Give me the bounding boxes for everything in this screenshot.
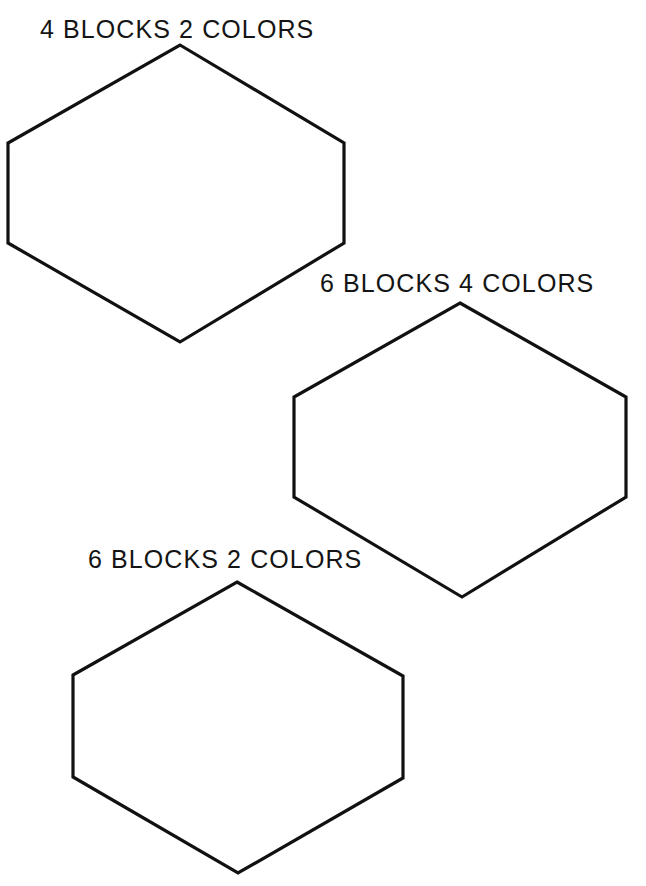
figure-label-4-blocks-2-colors: 4 BLOCKS 2 COLORS — [40, 17, 314, 42]
figure-label-6-blocks-4-colors: 6 BLOCKS 4 COLORS — [320, 271, 594, 296]
hexagon-shape-4-blocks-2-colors — [8, 45, 344, 342]
figure-label-6-blocks-2-colors: 6 BLOCKS 2 COLORS — [88, 547, 362, 572]
page-header-text: GEOMETRIC COVERING — [430, 0, 627, 3]
page-header-clipped: GEOMETRIC COVERING — [430, 0, 646, 5]
hexagon-diagram-canvas — [0, 0, 646, 886]
hexagon-shape-6-blocks-2-colors — [73, 582, 403, 873]
pattern-page: GEOMETRIC COVERING 4 BLOCKS 2 COLORS 6 B… — [0, 0, 646, 886]
